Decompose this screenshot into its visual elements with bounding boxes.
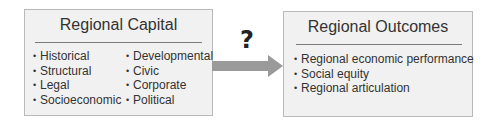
title-divider xyxy=(296,44,462,45)
list-item: Social equity xyxy=(294,67,474,82)
question-mark-label: ? xyxy=(240,26,254,54)
regional-outcomes-title: Regional Outcomes xyxy=(284,18,472,36)
regional-capital-title: Regional Capital xyxy=(25,16,212,34)
list-item: Historical xyxy=(33,49,121,64)
list-item: Developmental xyxy=(126,49,213,64)
list-item: Corporate xyxy=(126,78,213,93)
list-item: Regional economic performance xyxy=(294,52,474,67)
list-item: Structural xyxy=(33,64,121,79)
outcomes-list: Regional economic performance Social equ… xyxy=(294,52,474,96)
right-arrow-icon xyxy=(212,55,284,77)
title-divider xyxy=(35,42,202,43)
regional-outcomes-box: Regional Outcomes Regional economic perf… xyxy=(283,11,473,117)
list-item: Socioeconomic xyxy=(33,93,121,108)
list-item: Political xyxy=(126,93,213,108)
regional-capital-box: Regional Capital Historical Structural L… xyxy=(24,9,213,116)
list-item: Regional articulation xyxy=(294,81,474,96)
list-item: Civic xyxy=(126,64,213,79)
capital-list-column-2: Developmental Civic Corporate Political xyxy=(126,49,213,107)
capital-list-column-1: Historical Structural Legal Socioeconomi… xyxy=(33,49,121,107)
list-item: Legal xyxy=(33,78,121,93)
